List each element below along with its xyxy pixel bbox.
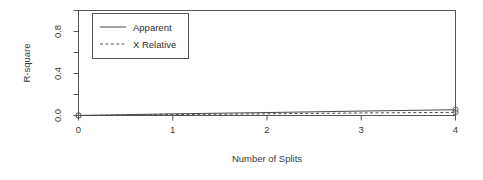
y-tick-label: 0.4 bbox=[52, 67, 63, 80]
legend-label-apparent: Apparent bbox=[133, 22, 172, 33]
x-tick-label: 3 bbox=[359, 124, 364, 135]
legend: Apparent X Relative bbox=[93, 14, 189, 59]
x-tick-label: 0 bbox=[76, 124, 81, 135]
chart-canvas: 0.00.40.8 01234 R-square Number of Split… bbox=[0, 0, 483, 180]
x-axis-tick-labels: 01234 bbox=[76, 124, 458, 135]
y-tick-label: 0.0 bbox=[52, 109, 63, 122]
x-tick-label: 1 bbox=[170, 124, 175, 135]
rsquare-vs-splits-chart: 0.00.40.8 01234 R-square Number of Split… bbox=[0, 0, 483, 180]
x-tick-label: 4 bbox=[453, 124, 458, 135]
legend-box bbox=[93, 14, 189, 59]
x-axis-title: Number of Splits bbox=[232, 153, 302, 164]
x-axis-ticks bbox=[79, 116, 456, 121]
x-tick-label: 2 bbox=[264, 124, 269, 135]
y-axis-title: R-square bbox=[21, 43, 32, 82]
legend-label-x-relative: X Relative bbox=[133, 39, 176, 50]
y-tick-label: 0.8 bbox=[52, 25, 63, 38]
data-series-layer bbox=[79, 110, 456, 116]
y-axis-tick-labels: 0.00.40.8 bbox=[52, 25, 63, 122]
y-axis-ticks bbox=[74, 11, 79, 116]
